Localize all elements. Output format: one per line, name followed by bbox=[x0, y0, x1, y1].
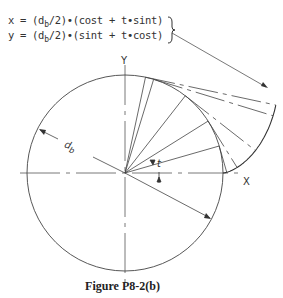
equation-x: x = (db/2)•(cost + t•sint) bbox=[8, 14, 163, 29]
figure-caption: Figure P8-2(b) bbox=[0, 279, 245, 294]
tangent-line bbox=[154, 79, 273, 116]
radial-line bbox=[125, 77, 146, 173]
diameter-line-lower bbox=[125, 173, 210, 218]
brace-icon bbox=[168, 17, 175, 43]
involute-curve bbox=[223, 105, 276, 173]
construction-lines bbox=[125, 77, 276, 173]
y-axis-label: Y bbox=[121, 55, 127, 66]
radial-line bbox=[125, 79, 154, 173]
angle-label: t bbox=[157, 158, 161, 169]
axes bbox=[20, 65, 240, 285]
radial-line bbox=[125, 146, 219, 173]
equation-y: y = (db/2)•(sint + t•cost) bbox=[8, 29, 163, 44]
involute-diagram bbox=[0, 0, 283, 298]
radial-line bbox=[125, 96, 185, 173]
tangent-line bbox=[185, 96, 255, 151]
leader-arrow bbox=[172, 33, 268, 88]
radial-line bbox=[125, 121, 208, 173]
x-axis-label: X bbox=[243, 176, 250, 187]
